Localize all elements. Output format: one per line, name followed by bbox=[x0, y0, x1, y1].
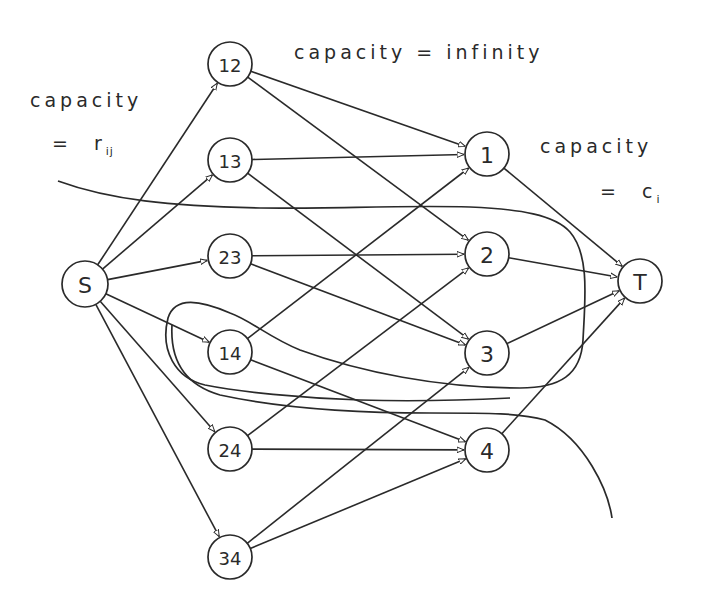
edge-S-to-14 bbox=[106, 294, 209, 342]
edge-S-to-34 bbox=[96, 304, 219, 536]
capacity-variable-c: c bbox=[642, 180, 656, 202]
node-24: 24 bbox=[208, 427, 252, 471]
edge-24-to-4 bbox=[252, 449, 464, 450]
edge-23-to-2 bbox=[252, 254, 464, 256]
cut-curves bbox=[58, 181, 612, 518]
node-1: 1 bbox=[465, 132, 509, 176]
edge-S-to-24 bbox=[100, 301, 215, 431]
node-T: T bbox=[618, 259, 662, 303]
edge-14-to-1 bbox=[247, 168, 468, 339]
subscript-ij: ij bbox=[106, 145, 114, 158]
node-14: 14 bbox=[208, 330, 252, 374]
equals-sign: = bbox=[52, 132, 72, 154]
sink-capacity-label: capacity bbox=[540, 135, 652, 157]
sink-capacity-text: capacity bbox=[540, 135, 652, 157]
edge-24-to-2 bbox=[248, 268, 469, 436]
node-label: 2 bbox=[480, 243, 494, 268]
node-label: 23 bbox=[219, 247, 242, 268]
edge-4-to-T bbox=[502, 298, 625, 434]
node-label: 4 bbox=[480, 439, 494, 464]
edge-2-to-T bbox=[509, 258, 618, 277]
source-capacity-formula: = rij bbox=[52, 132, 114, 158]
edge-S-to-23 bbox=[108, 260, 208, 279]
source-capacity-label: capacity bbox=[30, 89, 142, 111]
edge-34-to-4 bbox=[250, 459, 465, 549]
node-S: S bbox=[62, 261, 108, 307]
source-capacity-text: capacity bbox=[30, 89, 142, 111]
nodes: S1213231424341234T bbox=[62, 42, 662, 579]
node-label: 1 bbox=[480, 143, 494, 168]
node-13: 13 bbox=[208, 138, 252, 182]
capacity-variable-r: r bbox=[94, 132, 106, 154]
edge-12-to-1 bbox=[251, 71, 465, 146]
node-label: 24 bbox=[219, 440, 242, 461]
node-label: 12 bbox=[219, 55, 242, 76]
node-label: 13 bbox=[219, 151, 242, 172]
edge-3-to-T bbox=[507, 291, 619, 344]
node-label: 34 bbox=[219, 548, 242, 569]
node-3: 3 bbox=[465, 331, 509, 375]
node-label: 3 bbox=[480, 342, 494, 367]
node-label: 14 bbox=[219, 343, 242, 364]
edge-23-to-3 bbox=[251, 264, 466, 345]
edge-S-to-13 bbox=[103, 175, 213, 269]
node-34: 34 bbox=[208, 535, 252, 579]
node-label: T bbox=[632, 270, 647, 295]
node-label: S bbox=[78, 273, 92, 298]
node-23: 23 bbox=[208, 234, 252, 278]
equals-sign: = bbox=[600, 180, 620, 202]
middle-capacity-label: capacity = infinity bbox=[294, 41, 544, 63]
subscript-i: i bbox=[656, 193, 660, 206]
edge-34-to-3 bbox=[247, 367, 469, 543]
node-4: 4 bbox=[465, 428, 509, 472]
node-2: 2 bbox=[465, 232, 509, 276]
node-12: 12 bbox=[208, 42, 252, 86]
sink-capacity-formula: = ci bbox=[600, 180, 660, 206]
middle-capacity-text: capacity = infinity bbox=[294, 41, 544, 63]
